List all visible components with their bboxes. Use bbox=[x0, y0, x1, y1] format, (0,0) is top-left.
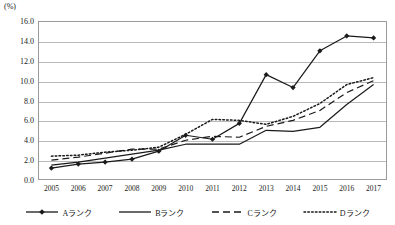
y-tick-label: 4.0 bbox=[2, 136, 34, 145]
legend-label: Aランク bbox=[62, 207, 92, 218]
data-point-marker bbox=[264, 72, 269, 77]
chart-legend: AランクBランクCランクDランク bbox=[0, 202, 395, 222]
legend-label: Bランク bbox=[155, 207, 184, 218]
x-tick-label: 2013 bbox=[259, 184, 274, 193]
legend-swatch-dashed bbox=[211, 207, 245, 217]
y-tick-label: 14.0 bbox=[2, 36, 34, 45]
x-tick-label: 2005 bbox=[44, 184, 59, 193]
line-chart: (%) 0.02.04.06.08.010.012.014.016.0 2005… bbox=[0, 0, 395, 225]
x-tick-label: 2017 bbox=[366, 184, 381, 193]
y-axis-unit-label: (%) bbox=[4, 2, 16, 11]
x-tick-label: 2015 bbox=[312, 184, 327, 193]
y-tick-label: 12.0 bbox=[2, 56, 34, 65]
x-tick-label: 2016 bbox=[339, 184, 354, 193]
x-tick-label: 2010 bbox=[178, 184, 193, 193]
legend-label: Dランク bbox=[340, 207, 370, 218]
legend-swatch-solid-marker bbox=[25, 207, 59, 217]
legend-item[interactable]: Dランク bbox=[303, 207, 370, 218]
y-tick-label: 8.0 bbox=[2, 96, 34, 105]
x-tick-label: 2014 bbox=[286, 184, 301, 193]
y-tick-label: 0.0 bbox=[2, 176, 34, 185]
y-tick-label: 2.0 bbox=[2, 156, 34, 165]
data-point-marker bbox=[103, 160, 108, 165]
data-point-marker bbox=[129, 157, 134, 162]
data-point-marker bbox=[344, 33, 349, 38]
y-tick-label: 10.0 bbox=[2, 76, 34, 85]
y-tick-label: 6.0 bbox=[2, 116, 34, 125]
legend-item[interactable]: Aランク bbox=[25, 207, 92, 218]
x-tick-label: 2011 bbox=[205, 184, 220, 193]
x-tick-label: 2007 bbox=[98, 184, 113, 193]
x-axis-tick-labels: 2005200620072008200920102011201220132014… bbox=[38, 184, 387, 198]
data-point-marker bbox=[371, 35, 376, 40]
x-tick-label: 2006 bbox=[71, 184, 86, 193]
series-line bbox=[51, 36, 373, 168]
data-point-marker bbox=[210, 137, 215, 142]
series-line bbox=[51, 85, 373, 165]
data-point-marker bbox=[49, 165, 54, 170]
legend-item[interactable]: Cランク bbox=[211, 207, 277, 218]
x-tick-label: 2012 bbox=[232, 184, 247, 193]
y-tick-label: 16.0 bbox=[2, 17, 34, 26]
legend-swatch-dotted bbox=[303, 207, 337, 217]
x-tick-label: 2008 bbox=[124, 184, 139, 193]
data-point-marker bbox=[237, 121, 242, 126]
legend-item[interactable]: Bランク bbox=[118, 207, 184, 218]
x-tick-label: 2009 bbox=[151, 184, 166, 193]
legend-swatch-solid bbox=[118, 207, 152, 217]
series-line bbox=[51, 81, 373, 161]
series-lines-layer bbox=[38, 21, 387, 180]
legend-label: Cランク bbox=[248, 207, 277, 218]
